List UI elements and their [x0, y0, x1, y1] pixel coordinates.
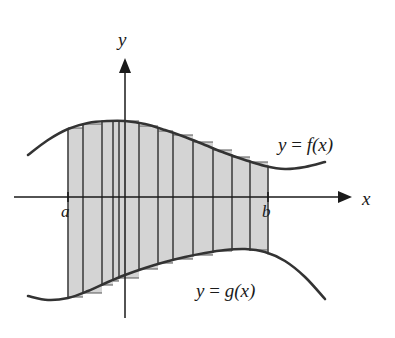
lower-bound-label-a: a: [61, 203, 70, 220]
approximating-rectangle: [193, 142, 213, 255]
approximating-rectangle: [119, 121, 139, 278]
upper-bound-label-b: b: [262, 203, 271, 220]
approximating-rectangle: [213, 150, 232, 251]
area-between-curves-figure: y x a b y = f(x) y = g(x): [0, 0, 395, 338]
approximating-rectangle: [83, 124, 102, 293]
curve-label-g-lhs: y: [196, 280, 204, 301]
curve-label-f-lhs: y: [278, 134, 286, 155]
curve-label-g-operator: =: [209, 280, 220, 301]
curve-label-f-operator: =: [291, 134, 302, 155]
x-axis-arrowhead: [338, 191, 352, 203]
approximating-rectangle: [102, 121, 113, 285]
approximating-rectangle: [68, 128, 83, 297]
curve-label-f-rhs: f(x): [307, 134, 333, 155]
curve-label-g-rhs: g(x): [225, 280, 256, 301]
curve-label-g: y = g(x): [196, 281, 255, 300]
approximating-rectangle: [232, 157, 250, 249]
shaded-region: [68, 120, 268, 299]
y-axis-label: y: [118, 30, 126, 49]
approximating-rectangle: [113, 121, 119, 281]
y-axis-arrowhead: [119, 58, 131, 73]
x-axis-label: x: [362, 189, 370, 208]
curve-label-f: y = f(x): [278, 135, 333, 154]
